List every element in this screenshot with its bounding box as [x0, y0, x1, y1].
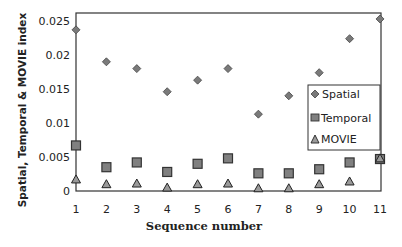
- x-tick-label: 10: [343, 203, 357, 216]
- temporal-point: [254, 169, 263, 178]
- x-tick-label: 2: [103, 203, 110, 216]
- temporal-point: [284, 169, 293, 178]
- y-tick-label: 0.025: [39, 15, 71, 28]
- x-tick-label: 1: [73, 203, 80, 216]
- legend: Spatial Temporal MOVIE: [308, 85, 380, 150]
- scatter-chart: 00.0050.010.0150.020.025 1234567891011 S…: [0, 0, 402, 247]
- temporal-point: [163, 167, 172, 176]
- x-axis-ticks: 1234567891011: [73, 203, 388, 216]
- x-tick-label: 9: [316, 203, 323, 216]
- y-tick-label: 0.015: [39, 83, 71, 96]
- square-marker-icon: [311, 114, 319, 121]
- x-tick-label: 8: [285, 203, 292, 216]
- y-tick-label: 0.01: [46, 117, 71, 130]
- temporal-point: [315, 165, 324, 174]
- y-axis-ticks: 00.0050.010.0150.020.025: [39, 15, 71, 198]
- y-axis-title: Spatial, Temporal & MOVIE index: [16, 13, 28, 208]
- temporal-point: [193, 159, 202, 168]
- legend-label-movie: MOVIE: [321, 133, 357, 146]
- x-tick-label: 7: [255, 203, 262, 216]
- temporal-point: [72, 141, 81, 150]
- x-tick-label: 5: [194, 203, 201, 216]
- y-tick-label: 0: [63, 185, 70, 198]
- x-tick-label: 11: [373, 203, 387, 216]
- temporal-point: [102, 163, 111, 172]
- y-tick-label: 0.005: [39, 151, 71, 164]
- legend-item-temporal: Temporal: [311, 112, 371, 125]
- y-tick-label: 0.02: [46, 49, 71, 62]
- x-tick-label: 4: [164, 203, 171, 216]
- x-tick-label: 3: [133, 203, 140, 216]
- x-tick-label: 6: [225, 203, 232, 216]
- temporal-point: [345, 158, 354, 167]
- legend-label-spatial: Spatial: [322, 88, 360, 101]
- legend-label-temporal: Temporal: [320, 112, 371, 125]
- temporal-point: [224, 154, 233, 163]
- temporal-point: [132, 158, 141, 167]
- x-axis-title: Sequence number: [146, 219, 263, 233]
